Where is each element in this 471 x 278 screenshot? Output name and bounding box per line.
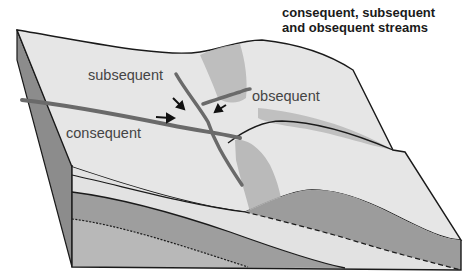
label-consequent: consequent — [66, 125, 141, 141]
label-subsequent: subsequent — [88, 67, 163, 83]
label-obsequent: obsequent — [252, 88, 320, 104]
block-diagram: subsequent obsequent consequent — [0, 0, 471, 278]
